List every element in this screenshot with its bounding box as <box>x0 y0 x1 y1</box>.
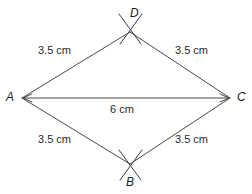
measurement-label-diagonal-AC: 6 cm <box>110 104 134 115</box>
measurement-label-side-DC: 3.5 cm <box>175 45 208 56</box>
vertex-label-d: D <box>130 7 139 19</box>
vertex-label-c: C <box>237 91 246 103</box>
vertex-label-b: B <box>126 176 134 188</box>
rhombus-drawing <box>0 0 252 194</box>
side-AD <box>22 32 130 98</box>
measurement-label-side-BC: 3.5 cm <box>175 134 208 145</box>
side-DC <box>130 32 230 98</box>
side-BC <box>130 98 230 164</box>
measurement-label-side-AB: 3.5 cm <box>38 134 71 145</box>
geometry-figure: A B C D 3.5 cm 3.5 cm 6 cm 3.5 cm 3.5 cm <box>0 0 252 194</box>
measurement-label-side-AD: 3.5 cm <box>38 45 71 56</box>
vertex-label-a: A <box>6 91 14 103</box>
